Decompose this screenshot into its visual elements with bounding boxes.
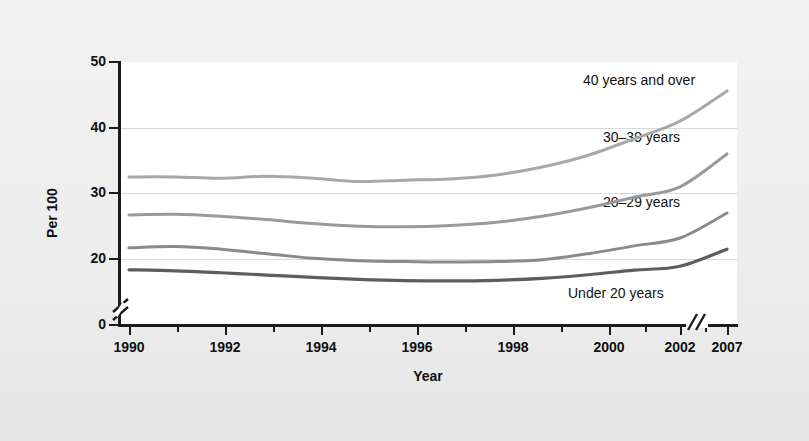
x-tick-2002 [680, 327, 682, 335]
x-tick-minor-1999 [561, 327, 563, 332]
series-label-30-39: 30–39 years [603, 129, 680, 145]
y-tick-label-0: 0 [78, 316, 106, 332]
series-label-40-plus: 40 years and over [583, 72, 695, 88]
y-tick-0 [109, 324, 118, 326]
x-tick-2000 [609, 327, 611, 335]
x-tick-label-1996: 1996 [387, 339, 447, 355]
x-tick-1996 [417, 327, 419, 335]
chart-figure: 50 40 30 20 0 1990 1992 1994 1996 1998 2… [0, 0, 809, 441]
y-tick-40 [109, 127, 118, 129]
x-axis-title: Year [119, 368, 737, 384]
x-tick-label-1998: 1998 [483, 339, 543, 355]
y-tick-label-20: 20 [78, 250, 106, 266]
y-tick-50 [109, 61, 118, 63]
y-tick-label-30: 30 [78, 184, 106, 200]
x-tick-label-1994: 1994 [291, 339, 351, 355]
x-tick-minor-2001 [645, 327, 647, 332]
y-tick-label-50: 50 [78, 53, 106, 69]
y-axis-line [118, 61, 121, 326]
y-axis-title: Per 100 [44, 158, 60, 268]
x-tick-1994 [321, 327, 323, 335]
x-tick-label-1992: 1992 [195, 339, 255, 355]
x-tick-2007 [727, 327, 729, 335]
x-tick-label-2000: 2000 [579, 339, 639, 355]
x-tick-1992 [225, 327, 227, 335]
x-tick-1990 [129, 327, 131, 335]
x-tick-1998 [513, 327, 515, 335]
gridline-20 [119, 259, 737, 260]
x-tick-label-1990: 1990 [99, 339, 159, 355]
x-tick-minor-1991 [177, 327, 179, 332]
y-tick-30 [109, 192, 118, 194]
series-label-20-29: 20–29 years [603, 194, 680, 210]
x-tick-label-2007: 2007 [697, 339, 757, 355]
x-tick-minor-1997 [465, 327, 467, 332]
y-tick-20 [109, 258, 118, 260]
x-tick-minor-2006 [705, 327, 707, 332]
x-tick-minor-1995 [369, 327, 371, 332]
x-tick-minor-1993 [273, 327, 275, 332]
y-tick-label-40: 40 [78, 119, 106, 135]
series-label-under-20: Under 20 years [568, 285, 664, 301]
